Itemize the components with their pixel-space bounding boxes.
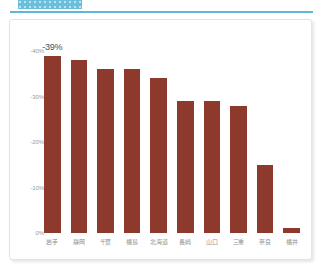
bar-slot: 奈良 (252, 20, 279, 259)
bar[interactable] (204, 101, 220, 233)
x-axis-tick-label: 北海道 (150, 237, 168, 246)
x-axis-tick-label: 千葉 (100, 237, 112, 246)
bar[interactable] (44, 56, 60, 233)
x-axis-tick-label: 福井 (286, 237, 298, 246)
bar-slot: -39%岩手 (39, 20, 66, 259)
x-axis-tick-label: 三重 (233, 237, 245, 246)
chart-card: -40%-30%-20%-10%0% -39%岩手静岡千葉福島北海道長崎山口三重… (9, 19, 312, 260)
header-divider (10, 11, 313, 13)
bar[interactable] (177, 101, 193, 233)
bar-slot: 福井 (278, 20, 305, 259)
x-axis-tick-label: 静岡 (73, 237, 85, 246)
x-axis-tick-label: 長崎 (179, 237, 191, 246)
bar[interactable] (230, 106, 246, 233)
bar-slot: 長崎 (172, 20, 199, 259)
header-title-block (18, 0, 82, 9)
bar-slot: 北海道 (145, 20, 172, 259)
bar-slot: 千葉 (92, 20, 119, 259)
bar-chart-plot: -40%-30%-20%-10%0% -39%岩手静岡千葉福島北海道長崎山口三重… (10, 20, 311, 259)
bar[interactable] (71, 60, 87, 233)
bar-slot: 三重 (225, 20, 252, 259)
bar-slot: 福島 (119, 20, 146, 259)
x-axis-tick-label: 山口 (206, 237, 218, 246)
bar[interactable] (283, 228, 299, 233)
bar[interactable] (97, 69, 113, 233)
bar[interactable] (124, 69, 140, 233)
x-axis-tick-label: 福島 (126, 237, 138, 246)
bar-slot: 静岡 (66, 20, 93, 259)
bar[interactable] (257, 165, 273, 233)
x-axis-tick-label: 奈良 (259, 237, 271, 246)
bars-layer: -39%岩手静岡千葉福島北海道長崎山口三重奈良福井 (39, 20, 305, 259)
bar-slot: 山口 (199, 20, 226, 259)
x-axis-tick-label: 岩手 (46, 237, 58, 246)
bar-value-label: -39% (42, 42, 62, 52)
bar[interactable] (150, 78, 166, 233)
header-strip (0, 0, 323, 16)
